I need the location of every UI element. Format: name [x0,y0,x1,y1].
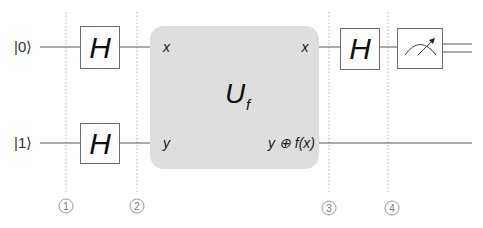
oracle-input-y: y [162,135,171,151]
oracle-input-x: x [162,39,171,55]
oracle-output-y-xor-fx: y ⊕ f(x) [267,135,315,151]
gate-label: H [89,31,111,64]
oracle-output-x: x [301,39,310,55]
step-badge-4: 4 [385,201,399,215]
measurement-gate [398,29,443,69]
svg-text:2: 2 [134,201,140,212]
gate-label: H [349,32,371,65]
hadamard-gate-bottom-1: H [81,124,120,164]
hadamard-gate-top-1: H [81,27,120,69]
gate-label: H [89,127,111,160]
step-badge-1: 1 [59,199,73,213]
hadamard-gate-top-2: H [341,29,380,70]
step-badge-3: 3 [322,201,336,215]
circuit-diagram: x y x y ⊕ f(x) U f H H H |0⟩ |1⟩ 1 2 3 [0,0,483,228]
svg-text:3: 3 [326,203,332,214]
svg-text:1: 1 [63,201,69,212]
input-ket-1: |1⟩ [14,134,32,151]
oracle-label: U [225,78,246,109]
step-badge-2: 2 [130,199,144,213]
input-ket-0: |0⟩ [14,38,32,55]
svg-text:4: 4 [389,203,395,214]
